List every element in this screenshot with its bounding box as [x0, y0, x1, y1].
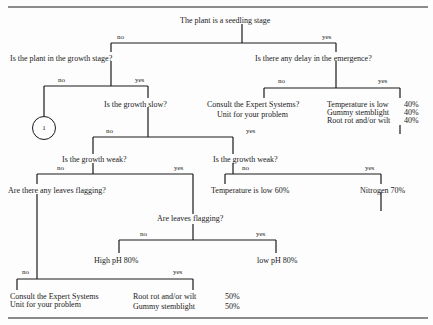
any-leaves-yes-pct-1: 50%	[225, 292, 240, 301]
decision-tree-diagram: The plant is a seedling stage no yes Is …	[0, 0, 433, 325]
emergence-question: Is there any delay in the emergence?	[255, 54, 372, 63]
emergence-no-result-line2: Unit for your problem	[217, 110, 288, 119]
growth-stage-no-label: no	[58, 76, 65, 85]
root-yes-label: yes	[322, 33, 331, 42]
growth-weak-right-question: Is the growth weak?	[213, 155, 278, 164]
growth-weak-left-question: Is the growth weak?	[62, 155, 127, 164]
leaves-flagging-no-result: High pH 80%	[94, 256, 138, 265]
growth-weak-right-no-result: Temperature is low 60%	[211, 186, 289, 195]
emergence-yes-cause-3: Root rot and/or wilt	[327, 116, 390, 125]
leaves-flagging-question: Are leaves flagging?	[157, 214, 223, 223]
any-leaves-flagging-question: Are there any leaves flagging?	[8, 186, 106, 195]
root-question: The plant is a seedling stage	[180, 16, 270, 25]
growth-slow-yes-label: yes	[246, 127, 255, 136]
leaves-flagging-yes-label: yes	[256, 230, 265, 239]
growth-stage-question: Is the plant in the growth stage?	[10, 54, 112, 63]
any-leaves-yes-cause-1: Root rot and/or wilt	[133, 292, 196, 301]
any-leaves-flagging-yes-label: yes	[173, 268, 182, 277]
emergence-yes-pct-3: 40%	[404, 116, 419, 125]
growth-weak-left-no-label: no	[57, 164, 64, 173]
growth-stage-yes-label: yes	[135, 76, 144, 85]
connector-number: 1	[42, 124, 46, 132]
emergence-no-result-line1: Consult the Expert Systems?	[207, 100, 299, 109]
any-leaves-no-result-line2: Unit for your problem	[10, 300, 81, 309]
growth-weak-right-yes-result: Nitrogen 70%	[360, 186, 405, 195]
emergence-no-label: no	[278, 77, 285, 86]
connector-circle-1: 1	[32, 116, 56, 140]
growth-slow-question: Is the growth slow?	[104, 100, 167, 109]
growth-weak-right-no-label-visible: no	[242, 164, 249, 173]
root-no-label: no	[117, 33, 124, 42]
any-leaves-yes-cause-2: Gummy stemblight	[133, 302, 195, 311]
emergence-yes-label: yes	[378, 77, 387, 86]
growth-weak-right-yes-label: yes	[365, 164, 374, 173]
leaves-flagging-yes-result: low pH 80%	[257, 256, 297, 265]
growth-weak-left-yes-label: yes	[174, 164, 183, 173]
growth-slow-no-label: no	[106, 127, 113, 136]
any-leaves-flagging-no-label: no	[22, 268, 29, 277]
any-leaves-yes-pct-2: 50%	[225, 302, 240, 311]
leaves-flagging-no-label: no	[140, 230, 147, 239]
